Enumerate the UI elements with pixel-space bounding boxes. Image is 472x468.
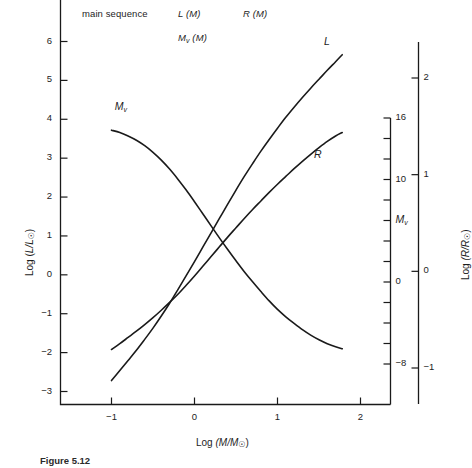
y-tick-label: 5 (30, 73, 52, 84)
curve-label-r: R (314, 148, 322, 160)
y2-axis-label-sun: ☉ (463, 233, 472, 240)
curve-label-mv: Mv (115, 100, 127, 112)
header-item-3: Mv (M) (178, 32, 207, 43)
x-axis-label-italic: (M/M (215, 437, 238, 448)
y-axis-label-italic: L/L (24, 239, 35, 253)
x-tick-label: 2 (347, 411, 375, 422)
x-axis-label-prefix: Log (196, 437, 215, 448)
x-axis-label: Log (M/M☉) (196, 437, 249, 448)
y-tick-label: 4 (30, 112, 52, 123)
y-axis-label-sun: ☉ (27, 232, 36, 239)
y-tick-label: −3 (30, 385, 52, 396)
mv-tick-label: 16 (396, 111, 407, 122)
figure-caption-label: Figure 5.12 (40, 455, 90, 466)
y-tick-label: −2 (30, 346, 52, 357)
x-tick-label: 1 (264, 411, 292, 422)
header-item-2: R (M) (243, 8, 267, 19)
header-item-1: L (M) (178, 8, 201, 19)
mv-tick-label: 10 (396, 173, 407, 184)
mv-tick-label: −8 (396, 357, 407, 368)
y-axis-label: Log (L/L☉) (24, 229, 35, 276)
y-axis-label-prefix: Log ( (24, 253, 35, 276)
y-tick-label: 2 (30, 190, 52, 201)
radius-tick-label: 0 (424, 264, 429, 275)
radius-tick-label: −1 (424, 361, 435, 372)
header-item-0: main sequence (82, 8, 148, 19)
curve-label-l: L (324, 35, 330, 47)
x-tick-label: 0 (181, 411, 209, 422)
y2-axis-label: Log (R/R☉) (460, 229, 471, 280)
x-axis-label-sun: ☉ (238, 440, 245, 449)
radius-tick-label: 1 (424, 168, 429, 179)
y-tick-label: −1 (30, 307, 52, 318)
y-tick-label: 3 (30, 151, 52, 162)
x-axis-label-suffix: ) (245, 437, 248, 448)
y-tick-label: 6 (30, 35, 52, 46)
y2-axis-label-prefix: Log (460, 261, 471, 280)
x-tick-label: −1 (98, 411, 126, 422)
y2-axis-label-italic: (R/R (460, 240, 471, 261)
mv-axis-name: Mv (396, 213, 408, 225)
mv-tick-label: 0 (396, 275, 401, 286)
radius-tick-label: 2 (424, 71, 429, 82)
figure-caption: Figure 5.12 (40, 455, 90, 466)
